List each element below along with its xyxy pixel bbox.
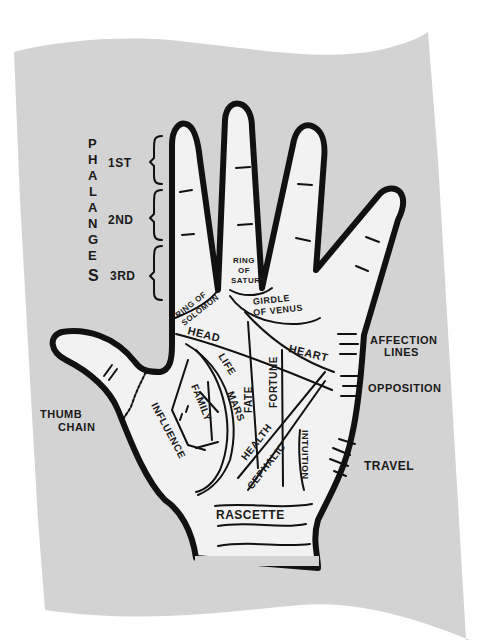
phalange-1st-label: 1ST (108, 156, 132, 170)
wrist-cut (195, 556, 319, 566)
svg-text:N: N (88, 216, 98, 231)
fate-line-label: FATE (243, 386, 254, 413)
svg-text:S: S (88, 267, 99, 284)
svg-text:RING: RING (233, 256, 255, 265)
svg-text:G: G (88, 232, 99, 247)
phalange-3rd-label: 3RD (110, 269, 136, 283)
rascette-label: RASCETTE (216, 508, 285, 522)
diagram-canvas: P H A L A N G E S 1ST 2ND 3RD RING OF SO… (0, 0, 487, 640)
svg-text:H: H (88, 152, 98, 167)
svg-text:AFFECTION: AFFECTION (370, 334, 437, 346)
svg-text:THUMB: THUMB (40, 408, 82, 420)
svg-text:SATURN: SATURN (231, 276, 267, 285)
travel-label: TRAVEL (364, 459, 414, 473)
fortune-line (282, 350, 283, 486)
svg-text:E: E (88, 248, 97, 263)
palmistry-diagram: P H A L A N G E S 1ST 2ND 3RD RING OF SO… (0, 0, 487, 640)
svg-text:A: A (88, 200, 98, 215)
svg-text:CHAIN: CHAIN (58, 421, 95, 433)
opposition-label: OPPOSITION (368, 382, 441, 394)
svg-text:L: L (89, 184, 97, 199)
svg-text:P: P (88, 136, 97, 151)
svg-text:OF: OF (238, 266, 250, 275)
fortune-line-label: FORTUNE (268, 356, 279, 408)
svg-text:A: A (88, 168, 98, 183)
svg-text:LINES: LINES (384, 346, 419, 358)
intuition-line-label: INTUITION (300, 430, 310, 480)
phalange-2nd-label: 2ND (108, 213, 134, 227)
